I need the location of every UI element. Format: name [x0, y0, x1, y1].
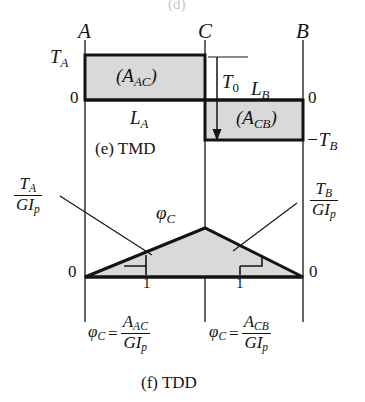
- tmd-label-ta: TA: [50, 47, 68, 70]
- caption-f-tdd: (f) TDD: [141, 374, 197, 391]
- tmd-length-la-label: LA: [130, 108, 148, 131]
- tdd-slope-one-right: 1: [236, 276, 244, 291]
- top-partial-caption: (d): [168, 0, 186, 12]
- tdd-left-fraction: TA GIp: [14, 175, 42, 216]
- leader-line-right: [233, 203, 297, 251]
- tmd-area-ac-label: (AAC): [116, 66, 157, 89]
- node-label-c: C: [198, 21, 212, 42]
- caption-e-tmd: (e) TMD: [95, 140, 156, 157]
- tdd-left-zero: 0: [68, 263, 77, 280]
- node-label-b: B: [296, 21, 309, 42]
- tmd-area-cb-label: (ACB): [236, 108, 277, 131]
- figure-canvas: (d) A C B TA 0 0 −TB (AAC) (ACB) LA LB T…: [0, 0, 365, 402]
- tdd-right-zero: 0: [309, 263, 318, 280]
- tmd-right-zero: 0: [308, 89, 317, 106]
- tmd-length-lb-label: LB: [251, 79, 269, 102]
- tmd-left-zero: 0: [70, 89, 79, 106]
- tdd-apex-phi-label: φC: [156, 203, 175, 226]
- tmd-torque-t0-label: T0: [222, 72, 239, 95]
- tdd-equation-right: φC = ACB GIp: [209, 313, 271, 354]
- tdd-equation-left: φC = AAC GIp: [88, 313, 150, 354]
- leader-line-left: [60, 196, 152, 255]
- tdd-right-fraction: TB GIp: [310, 180, 338, 221]
- node-label-a: A: [78, 21, 91, 42]
- tdd-slope-one-left: 1: [143, 276, 151, 291]
- tdd-triangle: [85, 228, 303, 277]
- tmd-label-minus-tb: −TB: [306, 130, 337, 153]
